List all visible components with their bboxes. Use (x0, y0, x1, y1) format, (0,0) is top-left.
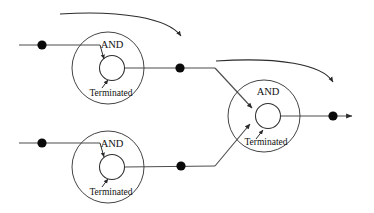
token-output-top[interactable] (175, 63, 184, 72)
node-right-state-label: Terminated (244, 137, 287, 147)
token-output-bottom[interactable] (176, 161, 185, 170)
node-bottom-left-terminated-arrow-icon (102, 179, 108, 187)
token-input-top[interactable] (37, 40, 46, 49)
wires-group (19, 45, 352, 167)
node-right-inner-circle (256, 104, 281, 129)
token-input-bottom[interactable] (37, 138, 46, 147)
wire-join-from-top (215, 68, 252, 108)
node-right-gate-label: AND (257, 86, 280, 97)
node-top-left-gate-label: AND (101, 39, 124, 50)
diagram-canvas: AND Terminated AND Terminated AND Termin… (0, 0, 374, 213)
node-bottom-left-inner-circle (100, 155, 125, 180)
feedback-curve-right-icon (216, 60, 333, 82)
feedback-curve-top-icon (60, 13, 181, 36)
node-top-left-state-label: Terminated (89, 88, 132, 98)
node-bottom-left-gate-label: AND (101, 138, 124, 149)
diagram-svg: AND Terminated AND Terminated AND Termin… (0, 0, 374, 213)
tokens-group (37, 40, 337, 170)
node-top-left-terminated-arrow-icon (102, 80, 108, 88)
token-output-final[interactable] (328, 111, 337, 120)
node-bottom-left-state-label: Terminated (89, 187, 132, 197)
node-top-left-inner-circle (100, 56, 125, 81)
wire-output-bottom (124, 166, 215, 167)
